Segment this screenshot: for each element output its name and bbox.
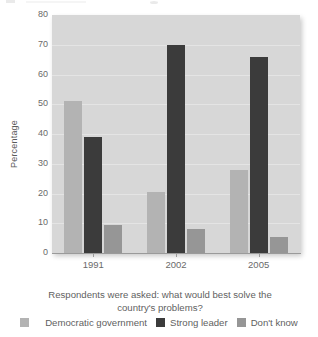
y-tick-30: 30 [24, 159, 48, 168]
x-tickmark-2002 [176, 254, 177, 257]
artifact-mark-left [6, 0, 15, 3]
clipped-top-artifact [0, 0, 318, 7]
caption-line-2: country's problems? [14, 301, 306, 314]
y-tick-60: 60 [24, 70, 48, 79]
y-tick-70: 70 [24, 40, 48, 49]
chart-plot-region: Percentage 01020304050607080 19912002200… [0, 7, 318, 269]
caption-line-1: Respondents were asked: what would best … [14, 288, 306, 301]
legend-label: Strong leader [170, 317, 228, 328]
bar-2002-don-t-know [187, 229, 205, 253]
artifact-mark-text [26, 1, 86, 3]
bar-1991-don-t-know [104, 225, 122, 253]
x-tickmark-2005 [259, 254, 260, 257]
bar-1991-democratic-government [64, 101, 82, 253]
legend-label: Democratic government [45, 317, 147, 328]
chart-legend: Democratic governmentStrong leaderDon't … [0, 317, 318, 328]
legend-item-don-t-know: Don't know [237, 317, 298, 328]
legend-swatch-icon [20, 318, 29, 327]
x-tick-2005: 2005 [229, 259, 289, 270]
bar-2002-strong-leader [167, 45, 185, 253]
bar-2005-strong-leader [250, 57, 268, 253]
legend-item-strong-leader: Strong leader [156, 317, 228, 328]
y-tick-50: 50 [24, 99, 48, 108]
y-tick-40: 40 [24, 129, 48, 138]
bar-1991-strong-leader [84, 137, 102, 253]
y-tick-10: 10 [24, 218, 48, 227]
artifact-mark-right [150, 1, 158, 4]
y-tick-20: 20 [24, 189, 48, 198]
legend-label: Don't know [251, 317, 298, 328]
bar-chart-figure: Percentage 01020304050607080 19912002200… [0, 7, 318, 337]
chart-caption: Respondents were asked: what would best … [14, 288, 306, 314]
y-tick-0: 0 [24, 248, 48, 257]
y-tick-80: 80 [24, 10, 48, 19]
x-tick-1991: 1991 [63, 259, 123, 270]
x-tick-2002: 2002 [146, 259, 206, 270]
legend-swatch-icon [237, 318, 246, 327]
legend-swatch-icon [156, 318, 165, 327]
bar-2002-democratic-government [147, 192, 165, 253]
legend-item-democratic-government: Democratic government [20, 317, 147, 328]
x-tickmark-1991 [93, 254, 94, 257]
plot-area [52, 15, 300, 253]
bar-2005-democratic-government [230, 170, 248, 253]
bar-2005-don-t-know [270, 237, 288, 253]
y-axis-title: Percentage [9, 99, 19, 189]
